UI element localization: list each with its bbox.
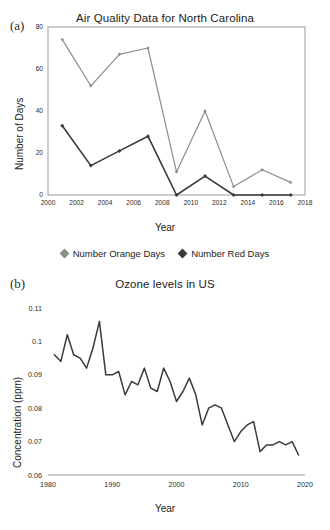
chart-ozone-levels-us: 0.060.070.080.090.10.1119801990200020102…: [0, 290, 330, 515]
y-tick-label: 0: [39, 191, 43, 198]
legend-label-orange-days: Number Orange Days: [73, 248, 165, 259]
y-tick-label: 0.09: [28, 370, 42, 379]
legend-item-orange-days[interactable]: Number Orange Days: [61, 248, 165, 259]
legend-label-red-days: Number Red Days: [191, 248, 269, 259]
legend-air-quality: Number Orange Days Number Red Days: [0, 248, 330, 259]
y-tick-label: 0.08: [28, 404, 42, 413]
x-tick-label: 2014: [241, 199, 256, 206]
series-line-orange-days: [62, 40, 290, 187]
x-tick-label: 2006: [126, 199, 141, 206]
x-tick-label: 1990: [104, 480, 120, 489]
chart-title-air-quality: Air Quality Data for North Carolina: [0, 12, 330, 24]
y-tick-label: 0.06: [28, 471, 42, 480]
x-tick-label: 2002: [69, 199, 84, 206]
diamond-marker-icon: [178, 249, 188, 259]
y-tick-label: 0.11: [29, 304, 42, 313]
y-tick-label: 80: [36, 23, 44, 30]
y-axis-label-air-quality: Number of Days: [14, 98, 25, 170]
figure-panel-a: (a) Air Quality Data for North Carolina …: [0, 0, 330, 268]
y-tick-label: 60: [36, 65, 44, 72]
x-tick-label: 1980: [40, 480, 56, 489]
series-line-red-days: [62, 126, 290, 195]
legend-item-red-days[interactable]: Number Red Days: [179, 248, 269, 259]
x-tick-label: 2012: [212, 199, 227, 206]
series-line-ozone: [54, 321, 298, 455]
y-tick-label: 0.1: [32, 337, 42, 346]
y-tick-label: 20: [36, 149, 44, 156]
x-axis-label-air-quality: Year: [0, 222, 330, 233]
figure-panel-b: (b) Ozone levels in US Concentration (pp…: [0, 268, 330, 530]
x-tick-label: 2004: [98, 199, 113, 206]
x-tick-label: 2018: [298, 199, 313, 206]
y-tick-label: 40: [36, 107, 44, 114]
chart-air-quality-nc: 0204060802000200220042006200820102012201…: [0, 0, 330, 230]
data-point-marker: [289, 181, 292, 184]
data-point-marker: [260, 193, 264, 197]
x-tick-label: 2000: [41, 199, 56, 206]
diamond-marker-icon: [59, 249, 69, 259]
y-tick-label: 0.07: [28, 437, 42, 446]
x-tick-label: 2020: [297, 480, 313, 489]
x-tick-label: 2000: [169, 480, 185, 489]
data-point-marker: [146, 46, 149, 49]
x-tick-label: 2010: [233, 480, 249, 489]
x-tick-label: 2016: [269, 199, 284, 206]
data-point-marker: [289, 193, 293, 197]
x-tick-label: 2008: [155, 199, 170, 206]
x-tick-label: 2010: [183, 199, 198, 206]
chart-title-ozone: Ozone levels in US: [0, 278, 330, 290]
